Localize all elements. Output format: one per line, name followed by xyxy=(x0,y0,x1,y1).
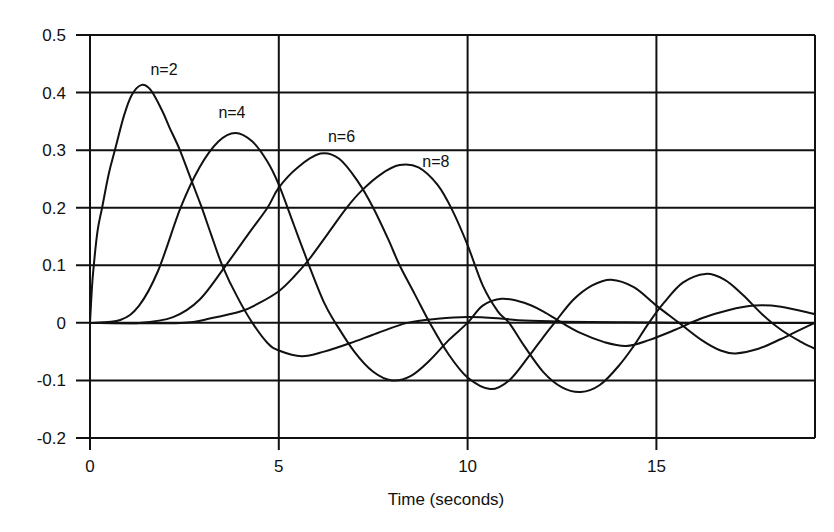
series-label-n6: n=6 xyxy=(328,128,355,145)
series-curves xyxy=(90,85,815,392)
y-tick-label: 0.2 xyxy=(42,199,66,218)
x-tick-label: 15 xyxy=(647,457,666,476)
series-line-n2 xyxy=(90,85,815,356)
gridlines xyxy=(76,35,815,450)
series-label-n4: n=4 xyxy=(218,104,245,121)
y-tick-label: -0.1 xyxy=(37,371,66,390)
series-label-n8: n=8 xyxy=(422,153,449,170)
y-tick-label: 0.3 xyxy=(42,141,66,160)
series-line-n6 xyxy=(90,153,815,389)
y-tick-label: 0.1 xyxy=(42,256,66,275)
y-tick-label: -0.2 xyxy=(37,429,66,448)
x-tick-label: 5 xyxy=(274,457,283,476)
x-tick-label: 0 xyxy=(85,457,94,476)
series-label-n2: n=2 xyxy=(150,61,177,78)
x-axis-title: Time (seconds) xyxy=(388,490,505,509)
x-axis: 051015 xyxy=(85,457,666,476)
y-tick-label: 0.5 xyxy=(42,26,66,45)
y-axis: 0.50.40.30.20.10-0.1-0.2 xyxy=(37,26,66,448)
y-tick-label: 0.4 xyxy=(42,84,66,103)
x-tick-label: 10 xyxy=(458,457,477,476)
y-tick-label: 0 xyxy=(57,314,66,333)
line-chart: 0.50.40.30.20.10-0.1-0.2 051015 n=2n=4n=… xyxy=(0,0,834,532)
series-labels: n=2n=4n=6n=8 xyxy=(150,61,449,170)
